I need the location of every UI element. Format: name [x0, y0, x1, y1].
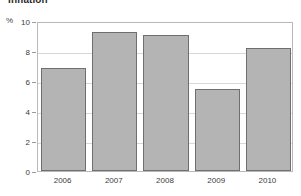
y-axis-tick-label: 4 — [4, 108, 30, 117]
y-axis-unit-label: % — [6, 16, 13, 25]
bar — [195, 89, 240, 172]
x-axis-tick-label: 2007 — [105, 176, 123, 185]
x-axis-tick-label: 2009 — [207, 176, 225, 185]
x-axis-tick-label: 2008 — [156, 176, 174, 185]
y-axis-tick-mark — [32, 22, 36, 23]
y-axis-tick-mark — [32, 112, 36, 113]
bar-chart: Inflation % 0246810 20062007200820092010 — [0, 0, 301, 196]
y-axis-tick-label: 0 — [4, 168, 30, 177]
y-axis-tick-label: 6 — [4, 78, 30, 87]
x-axis-tick-label: 2010 — [258, 176, 276, 185]
y-axis-tick-mark — [32, 142, 36, 143]
bar — [41, 68, 86, 172]
bar — [143, 35, 188, 172]
bar — [92, 32, 137, 172]
y-axis-tick-label: 8 — [4, 48, 30, 57]
y-axis-tick-mark — [32, 52, 36, 53]
y-axis-tick-mark — [32, 82, 36, 83]
chart-title: Inflation — [8, 0, 48, 5]
y-axis-tick-label: 2 — [4, 138, 30, 147]
x-axis-tick-label: 2006 — [54, 176, 72, 185]
plot-area — [37, 22, 293, 172]
y-axis-tick-mark — [32, 172, 36, 173]
bar — [246, 48, 291, 171]
